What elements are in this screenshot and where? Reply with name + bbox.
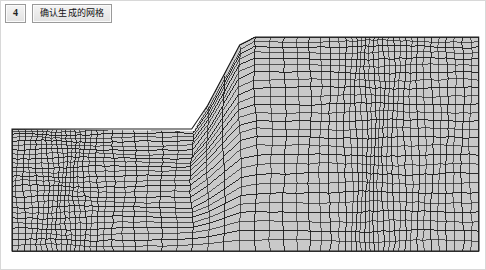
step-marker-icon: 4 (13, 8, 18, 18)
mesh-canvas (1, 25, 486, 270)
mesh-preview-window: 4 确认生成的网格 (0, 0, 486, 270)
step-number-button[interactable]: 4 (5, 4, 26, 23)
mesh-viewport[interactable] (1, 25, 486, 270)
confirm-generated-mesh-label: 确认生成的网格 (40, 9, 104, 18)
confirm-generated-mesh-button[interactable]: 确认生成的网格 (32, 4, 112, 23)
toolbar: 4 确认生成的网格 (1, 1, 112, 25)
